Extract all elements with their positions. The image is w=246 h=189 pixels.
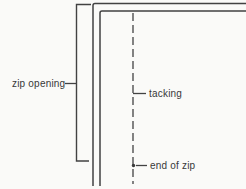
diagram-linework — [0, 0, 246, 189]
zip-opening-bracket — [77, 5, 92, 162]
end-of-zip-label: end of zip — [150, 160, 195, 171]
zip-opening-diagram: zip opening tacking end of zip — [0, 0, 246, 189]
tacking-label: tacking — [149, 88, 182, 99]
zip-opening-label: zip opening — [12, 78, 64, 89]
end-of-zip-dot — [132, 164, 135, 167]
